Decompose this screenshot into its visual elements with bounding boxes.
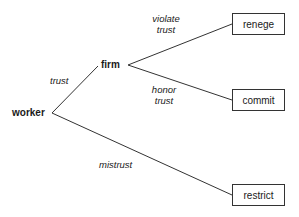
honor-line1: honor <box>146 84 182 95</box>
violate-line2: trust <box>146 24 186 35</box>
outcome-restrict: restrict <box>232 184 285 206</box>
edge-mistrust <box>52 113 232 195</box>
edge-trust <box>52 66 98 113</box>
honor-line2: trust <box>146 95 182 106</box>
violate-line1: violate <box>146 13 186 24</box>
edge-label-trust: trust <box>50 75 68 86</box>
node-worker: worker <box>12 107 45 119</box>
outcome-renege: renege <box>232 13 285 35</box>
edge-label-honor-trust: honor trust <box>146 84 182 106</box>
node-firm: firm <box>101 59 120 71</box>
edge-label-mistrust: mistrust <box>99 159 132 170</box>
edge-label-violate-trust: violate trust <box>146 13 186 35</box>
outcome-commit: commit <box>232 89 285 111</box>
